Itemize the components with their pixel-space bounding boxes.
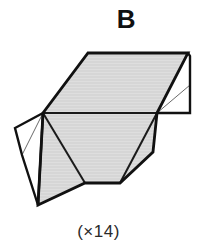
origami-net-diagram — [0, 0, 201, 248]
figure-panel-b: B (×14) — [0, 0, 201, 248]
figure-caption: (×14) — [0, 221, 201, 243]
